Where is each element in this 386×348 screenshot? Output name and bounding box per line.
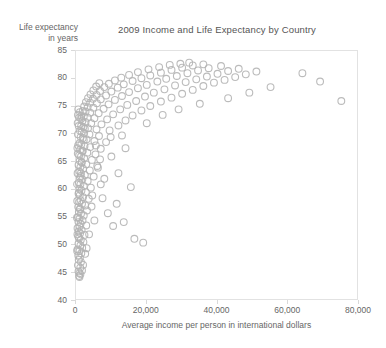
data-point xyxy=(246,89,253,96)
data-point xyxy=(87,184,94,191)
x-tick-label: 20,000 xyxy=(118,306,174,315)
data-point xyxy=(112,77,119,84)
data-point xyxy=(97,145,104,152)
data-point xyxy=(122,117,129,124)
data-point xyxy=(107,134,114,141)
y-tick-label: 80 xyxy=(25,73,67,82)
y-tick-label: 75 xyxy=(25,101,67,110)
data-point xyxy=(118,74,125,81)
data-point xyxy=(120,219,127,226)
data-point xyxy=(142,93,149,100)
data-point xyxy=(203,73,210,80)
data-point xyxy=(218,63,225,70)
data-point xyxy=(200,83,207,90)
data-point xyxy=(112,96,119,103)
y-tick-label: 40 xyxy=(25,296,67,305)
data-point xyxy=(173,73,180,80)
data-point xyxy=(299,70,306,77)
data-point xyxy=(235,65,242,72)
data-point xyxy=(242,71,249,78)
chart-title: 2009 Income and Life Expectancy by Count… xyxy=(75,24,359,35)
data-point xyxy=(172,82,179,89)
y-tick-label: 60 xyxy=(25,184,67,193)
data-point xyxy=(200,61,207,68)
y-tick-label: 55 xyxy=(25,212,67,221)
data-point xyxy=(133,98,140,105)
y-tick-label: 85 xyxy=(25,46,67,55)
data-point xyxy=(108,153,115,160)
data-point xyxy=(131,235,138,242)
data-point xyxy=(140,239,147,246)
data-point xyxy=(99,195,106,202)
data-point xyxy=(189,86,196,93)
data-point xyxy=(110,223,117,230)
data-point xyxy=(225,95,232,102)
y-tick-label: 45 xyxy=(25,268,67,277)
data-point xyxy=(143,120,150,127)
data-point xyxy=(127,184,134,191)
data-point xyxy=(104,210,111,217)
data-point xyxy=(158,98,165,105)
data-point xyxy=(232,74,239,81)
data-point xyxy=(105,101,112,108)
data-point xyxy=(119,132,126,139)
data-point xyxy=(317,78,324,85)
data-point xyxy=(221,76,228,83)
data-point xyxy=(138,107,145,114)
data-point xyxy=(108,88,115,95)
x-tick-label: 80,000 xyxy=(330,306,386,315)
data-point xyxy=(143,81,150,88)
y-tick-label: 65 xyxy=(25,157,67,166)
data-point xyxy=(184,70,191,77)
data-point xyxy=(120,81,127,88)
data-point xyxy=(161,86,168,93)
data-point xyxy=(98,121,105,128)
data-point xyxy=(338,98,345,105)
data-point xyxy=(196,100,203,107)
data-point xyxy=(175,106,182,113)
data-point xyxy=(225,68,232,75)
data-point xyxy=(93,100,100,107)
data-point xyxy=(113,200,120,207)
x-tick-label: 0 xyxy=(47,306,103,315)
y-tick-label: 50 xyxy=(25,240,67,249)
data-point xyxy=(182,79,189,86)
data-points-layer xyxy=(76,51,359,301)
data-point xyxy=(129,112,136,119)
data-point xyxy=(154,78,161,85)
data-point xyxy=(126,89,133,96)
data-point xyxy=(150,89,157,96)
data-point xyxy=(104,116,111,123)
data-point xyxy=(115,122,122,129)
data-point xyxy=(106,127,113,134)
data-point xyxy=(117,106,124,113)
data-point xyxy=(214,70,221,77)
data-point xyxy=(168,94,175,101)
data-point xyxy=(124,101,131,108)
plot-area xyxy=(75,50,358,300)
data-point xyxy=(145,66,152,73)
data-point xyxy=(159,111,166,118)
data-point xyxy=(135,69,142,76)
data-point xyxy=(147,103,154,110)
data-point xyxy=(88,203,95,210)
x-tick-label: 60,000 xyxy=(259,306,315,315)
x-axis-label: Average income per person in internation… xyxy=(75,320,358,330)
data-point xyxy=(135,85,142,92)
scatter-chart: Life expectancy in years 2009 Income and… xyxy=(0,0,386,348)
data-point xyxy=(122,145,129,152)
data-point xyxy=(86,231,93,238)
data-point xyxy=(96,133,103,140)
y-axis-label-line1: Life expectancy xyxy=(0,22,78,33)
data-point xyxy=(90,173,97,180)
data-point xyxy=(119,93,126,100)
data-point xyxy=(193,76,200,83)
data-point xyxy=(267,84,274,91)
y-axis-label-line2: in years xyxy=(0,33,78,44)
y-axis-label: Life expectancy in years xyxy=(0,22,78,44)
data-point xyxy=(97,181,104,188)
data-point xyxy=(91,217,98,224)
data-point xyxy=(163,75,170,82)
x-tick-label: 40,000 xyxy=(189,306,245,315)
data-point xyxy=(126,71,133,78)
